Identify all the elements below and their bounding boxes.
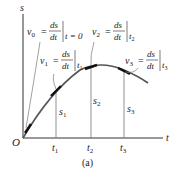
svg-text:ds: ds (114, 20, 123, 30)
position-curve (23, 65, 148, 138)
svg-text:dt: dt (147, 61, 155, 71)
figure-caption: (a) (82, 157, 93, 169)
svg-text:v2: v2 (92, 26, 100, 39)
svg-text:t1: t1 (77, 60, 83, 71)
svg-text:dt: dt (114, 32, 122, 42)
t3-label: t3 (120, 142, 127, 155)
svg-text:t2: t2 (129, 31, 135, 42)
svg-text:ds: ds (147, 49, 156, 59)
diagram: s t O s1 s2 s3 t1 t2 t3 v0 = ds dt t = 0… (0, 0, 178, 175)
s1-label: s1 (59, 106, 67, 119)
origin-label: O (12, 136, 20, 148)
svg-text:v3: v3 (125, 55, 133, 68)
tangent-0 (25, 124, 31, 133)
svg-text:=: = (138, 55, 144, 66)
svg-text:ds: ds (62, 49, 71, 59)
v3-label: v3 = ds dt t3 (125, 49, 168, 71)
svg-text:v1: v1 (40, 55, 48, 68)
s-axis-label: s (20, 2, 24, 13)
svg-text:=: = (41, 26, 47, 37)
svg-text:dt: dt (50, 32, 58, 42)
svg-text:v0: v0 (27, 26, 35, 39)
svg-text:=: = (53, 55, 59, 66)
t-axis-label: t (166, 132, 169, 143)
leader-v1 (53, 74, 56, 89)
v2-label: v2 = ds dt t2 (92, 20, 135, 42)
s-t-graph: s t O s1 s2 s3 t1 t2 t3 v0 = ds dt t = 0… (0, 0, 178, 175)
t2-label: t2 (87, 142, 94, 155)
leader-v2 (91, 42, 94, 66)
svg-text:=: = (105, 26, 111, 37)
svg-text:t = 0: t = 0 (65, 31, 83, 41)
t1-label: t1 (52, 142, 59, 155)
v1-label: v1 = ds dt t1 (40, 49, 83, 71)
svg-text:dt: dt (62, 61, 70, 71)
v0-label: v0 = ds dt t = 0 (27, 20, 83, 42)
s2-label: s2 (93, 95, 101, 108)
svg-text:ds: ds (50, 20, 59, 30)
svg-text:t3: t3 (162, 60, 168, 71)
s3-label: s3 (127, 103, 135, 116)
